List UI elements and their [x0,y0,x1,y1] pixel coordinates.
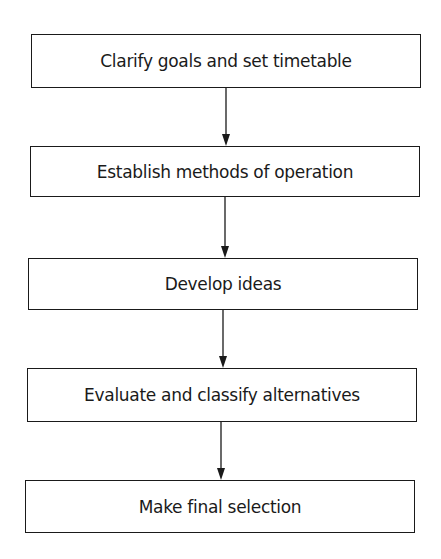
step-label: Clarify goals and set timetable [100,51,351,71]
arrowhead-icon [222,134,230,146]
step-final-selection: Make final selection [25,480,415,533]
arrowhead-icon [217,468,225,480]
arrowhead-icon [221,246,229,258]
step-label: Establish methods of operation [97,162,353,182]
step-establish-methods: Establish methods of operation [30,146,420,197]
step-clarify-goals: Clarify goals and set timetable [31,34,421,88]
step-label: Evaluate and classify alternatives [84,385,360,405]
step-evaluate-alternatives: Evaluate and classify alternatives [27,368,417,422]
step-develop-ideas: Develop ideas [28,258,418,310]
step-label: Make final selection [139,497,302,517]
arrowhead-icon [219,356,227,368]
step-label: Develop ideas [165,274,282,294]
